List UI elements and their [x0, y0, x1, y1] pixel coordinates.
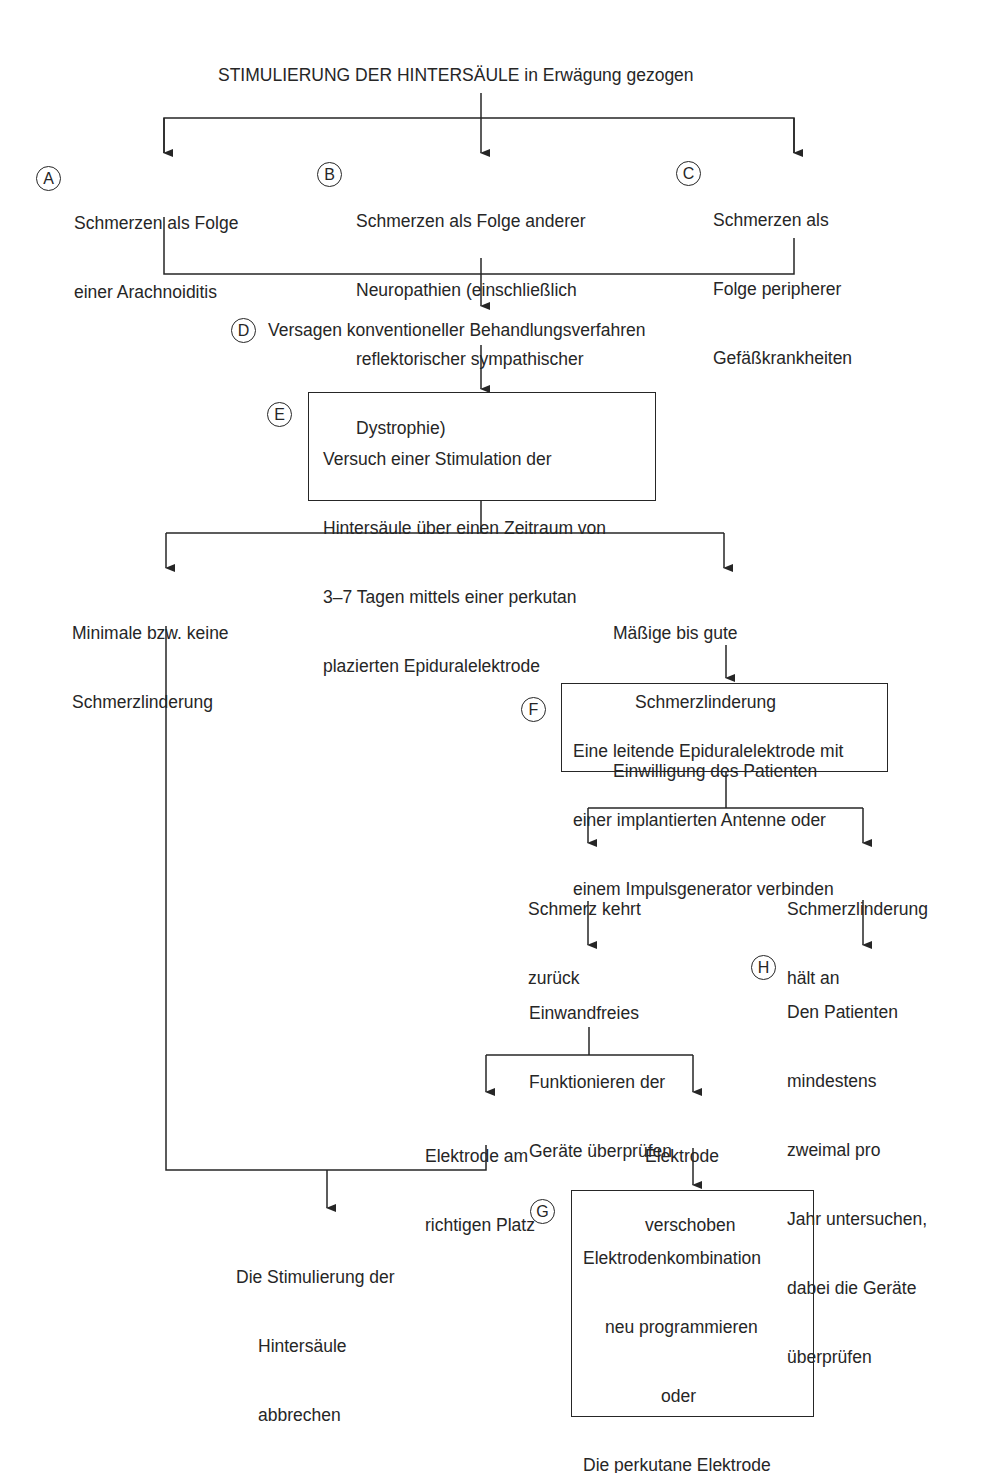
badge-f: F: [521, 697, 546, 722]
badge-g: G: [530, 1199, 555, 1224]
badge-h: H: [751, 955, 776, 980]
diagram-title: STIMULIERUNG DER HINTERSÄULE in Erwägung…: [218, 64, 694, 87]
badge-e: E: [267, 402, 292, 427]
node-electrode-ok: Elektrode am richtigen Platz: [425, 1099, 535, 1260]
node-d: Versagen konventioneller Behandlungsverf…: [268, 319, 646, 342]
badge-b: B: [317, 162, 342, 187]
node-no-relief: Minimale bzw. keine Schmerzlinderung: [72, 576, 229, 737]
badge-c: C: [676, 161, 701, 186]
node-stop-stimulation: Die Stimulierung der Hintersäule abbrech…: [236, 1220, 395, 1473]
badge-a: A: [36, 166, 61, 191]
node-c: Schmerzen als Folge peripherer Gefäßkran…: [713, 163, 852, 393]
badge-d: D: [231, 318, 256, 343]
node-a: Schmerzen als Folge einer Arachnoiditis: [74, 166, 238, 327]
node-g: Elektrodenkombination neu programmieren …: [583, 1201, 777, 1473]
node-e: Versuch einer Stimulation der Hintersäul…: [323, 402, 606, 701]
